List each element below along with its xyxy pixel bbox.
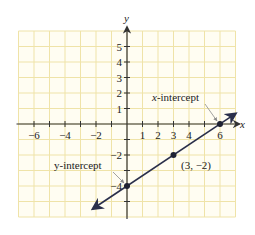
x-tick-label: −2 [90, 129, 102, 141]
y-tick-label: 2 [117, 87, 123, 99]
x-tick-label: 6 [217, 129, 223, 141]
data-point [171, 152, 177, 158]
y-tick-label: −2 [110, 149, 122, 161]
data-point [124, 183, 130, 189]
x-tick-label: −4 [59, 129, 71, 141]
y-tick-label: 1 [117, 103, 123, 115]
coordinate-plane: −6−4−21234654321−2−4 y x x-intercept y-i… [0, 0, 255, 235]
y-axis-label: y [123, 12, 129, 24]
point-3-neg2-label: (3, −2) [181, 159, 211, 172]
x-intercept-label: x-intercept [151, 91, 199, 103]
x-intercept-text: -intercept [157, 91, 199, 103]
x-tick-label: 3 [171, 129, 177, 141]
x-tick-label: 2 [155, 129, 161, 141]
x-axis-label: x [239, 118, 245, 130]
x-tick-label: 4 [186, 129, 192, 141]
y-tick-label: 4 [117, 56, 123, 68]
data-point [217, 121, 223, 127]
y-intercept-label: y-intercept [54, 159, 102, 171]
y-tick-label: 5 [117, 41, 123, 53]
x-tick-label: −6 [28, 129, 40, 141]
x-tick-label: 1 [140, 129, 146, 141]
y-tick-label: 3 [117, 72, 123, 84]
